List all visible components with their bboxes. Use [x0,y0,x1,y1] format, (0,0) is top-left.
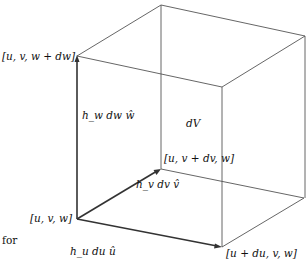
label-w-vector: h_w dw ŵ [82,109,134,122]
u-arrowhead-icon [214,244,222,249]
edge-top-front-left [77,56,222,87]
edge-bottom-back [161,169,304,198]
label-top-left: [u, v, w + dw] [2,50,76,62]
u-vector-arrow [77,219,217,246]
label-volume: dV [186,117,202,129]
edge-bottom-right [222,198,304,247]
label-front-right: [u + du, v, w] [226,247,298,259]
label-origin: [u, v, w] [30,212,73,224]
label-u-vector: h_u du û [70,245,116,258]
volume-element-diagram: [u, v, w + dw] h_w dw ŵ dV [u, v + dv, w… [0,0,306,259]
label-back: [u, v + dv, w] [164,152,235,164]
label-prefix: for [2,234,18,246]
label-v-vector: h_v dv v̂ [136,178,179,191]
edge-top-right-front [222,36,305,87]
edge-top-left-back [77,5,161,56]
edge-top-back-right [161,5,305,36]
